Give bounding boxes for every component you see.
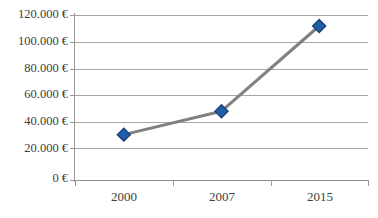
line-chart: 120.000 € 100.000 € 80.000 € 60.000 € 40… <box>0 0 378 218</box>
data-point-2000[interactable] <box>117 128 130 141</box>
data-series <box>0 0 378 218</box>
